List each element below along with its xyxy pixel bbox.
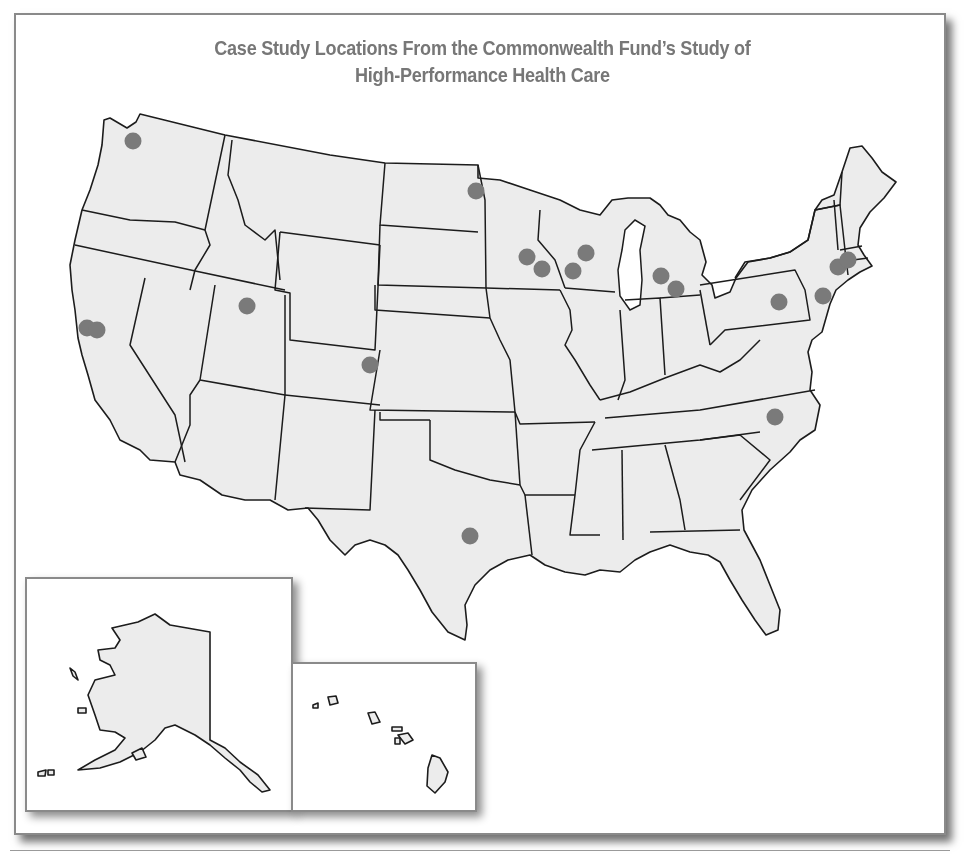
case-study-marker-ny <box>815 288 832 305</box>
case-study-marker-wi <box>565 263 582 280</box>
case-study-marker-ma <box>840 252 857 269</box>
hawaii-island <box>392 727 402 731</box>
case-study-marker-mi <box>653 268 670 285</box>
case-study-marker-ut <box>239 298 256 315</box>
case-study-marker-mi <box>668 281 685 298</box>
case-study-marker-pa <box>771 294 788 311</box>
case-study-marker-nc <box>767 409 784 426</box>
hawaii-inset-frame <box>292 663 476 811</box>
alaska-island <box>78 708 86 713</box>
case-study-marker-co <box>362 357 379 374</box>
case-study-marker-wa <box>125 133 142 150</box>
case-study-marker-nd <box>468 183 485 200</box>
hawaii-island <box>328 696 338 705</box>
us-map <box>0 0 965 857</box>
case-study-marker-tx <box>462 528 479 545</box>
alaska-island <box>38 770 46 776</box>
case-study-marker-wi <box>578 245 595 262</box>
case-study-marker-mn <box>534 261 551 278</box>
alaska-island <box>48 770 54 775</box>
case-study-marker-ca <box>89 322 106 339</box>
hawaii-island <box>395 738 400 744</box>
case-study-marker-mn <box>519 249 536 266</box>
bottom-rule <box>10 850 950 851</box>
